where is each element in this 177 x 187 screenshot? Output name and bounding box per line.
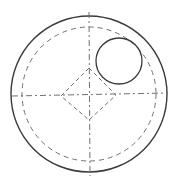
dashed-diamond	[61, 68, 116, 120]
outer-circle	[11, 16, 167, 172]
technical-drawing	[0, 0, 177, 187]
vertical-center-line	[89, 12, 90, 176]
dashed-circle	[22, 27, 156, 161]
horizontal-center-line	[12, 93, 168, 96]
small-circle	[96, 38, 142, 84]
